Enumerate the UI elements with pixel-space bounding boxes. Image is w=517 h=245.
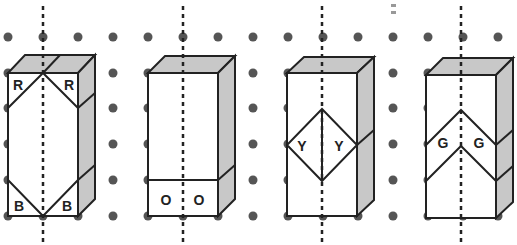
face-label: B	[62, 198, 72, 214]
face-label: R	[64, 77, 74, 93]
grid-dot	[249, 69, 258, 78]
face-label: R	[13, 77, 23, 93]
grid-dot	[144, 33, 153, 42]
grid-dot	[424, 33, 433, 42]
grid-dot	[74, 33, 83, 42]
grid-dot	[249, 212, 258, 221]
figure-3	[287, 57, 374, 216]
grid-dot	[109, 69, 118, 78]
grid-dot	[109, 212, 118, 221]
grid-dot	[4, 33, 13, 42]
grid-dot	[249, 104, 258, 113]
grid-dot	[249, 33, 258, 42]
face-label: G	[438, 135, 449, 151]
face-label: Y	[334, 138, 344, 154]
grid-dot	[109, 140, 118, 149]
grid-dot	[109, 176, 118, 185]
grid-dot	[389, 33, 398, 42]
grid-dot	[214, 33, 223, 42]
grid-dot	[249, 140, 258, 149]
face-label: O	[161, 192, 172, 208]
side-face	[78, 55, 95, 216]
face-label: B	[14, 198, 24, 214]
grid-dot	[389, 140, 398, 149]
face-label: O	[194, 192, 205, 208]
grid-dot	[109, 33, 118, 42]
face-label: G	[474, 135, 485, 151]
fold-diagram-canvas: RRBBOOYYGG	[0, 0, 517, 245]
grid-dot	[389, 176, 398, 185]
grid-dot	[389, 104, 398, 113]
grid-dot	[354, 33, 363, 42]
symmetry-axes	[43, 6, 461, 242]
corner-marks	[391, 4, 396, 14]
grid-dot	[109, 104, 118, 113]
grid-dot	[249, 176, 258, 185]
side-face	[218, 56, 235, 216]
grid-dot	[389, 212, 398, 221]
face-label: Y	[297, 138, 307, 154]
grid-dot	[494, 33, 503, 42]
grid-dot	[389, 69, 398, 78]
grid-dot	[284, 33, 293, 42]
